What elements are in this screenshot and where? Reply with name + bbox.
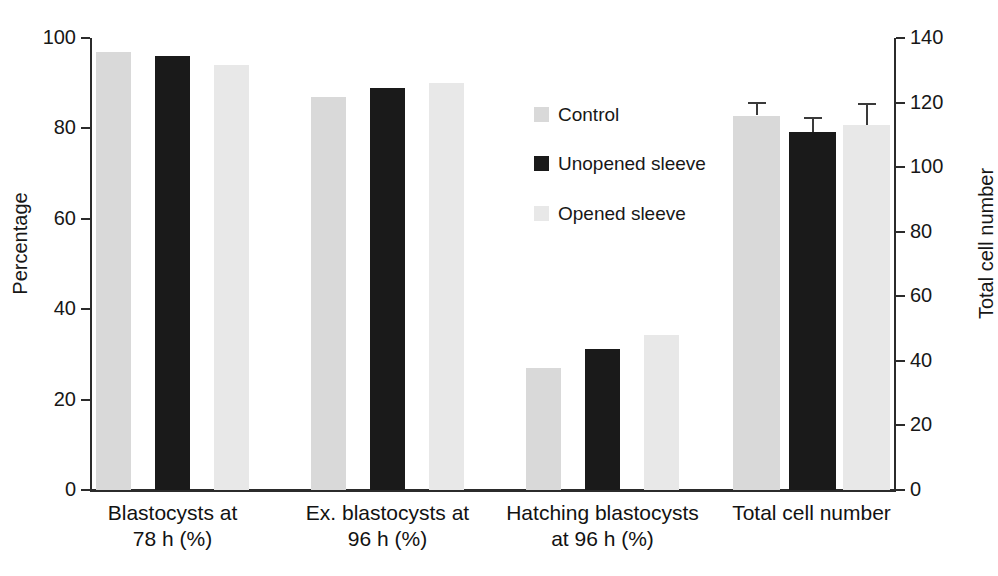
- y-axis-right-tick: [896, 295, 905, 297]
- x-axis-category-label: Ex. blastocysts at96 h (%): [278, 500, 498, 552]
- y-axis-left-tick: [81, 218, 90, 220]
- bar: [311, 97, 346, 490]
- bar: [526, 368, 561, 490]
- y-axis-right-tick: [896, 424, 905, 426]
- error-bar-cap: [858, 103, 876, 105]
- x-axis-category-label: Hatching blastocystsat 96 h (%): [493, 500, 713, 552]
- x-axis-category-label-line: Blastocysts at: [63, 500, 283, 526]
- plot-area: [90, 38, 895, 490]
- y-axis-right-tick-label: 40: [910, 350, 984, 370]
- bar: [96, 52, 131, 490]
- y-axis-left-tick: [81, 399, 90, 401]
- error-bar-stem: [756, 102, 758, 116]
- error-bar-stem: [866, 103, 868, 126]
- error-bar-cap: [804, 117, 822, 119]
- x-axis-category-label: Blastocysts at78 h (%): [63, 500, 283, 552]
- bar: [214, 65, 249, 490]
- y-axis-right-tick: [896, 489, 905, 491]
- error-bar-stem: [812, 117, 814, 132]
- bar: [155, 56, 190, 490]
- bar: [585, 349, 620, 490]
- y-axis-left-tick: [81, 37, 90, 39]
- y-axis-right-tick: [896, 360, 905, 362]
- y-axis-left-tick: [81, 127, 90, 129]
- legend-swatch-icon: [534, 206, 549, 221]
- x-axis-category-label-line: 78 h (%): [63, 526, 283, 552]
- legend-item: Unopened sleeve: [534, 154, 706, 173]
- y-axis-right-tick-label: 100: [910, 156, 984, 176]
- legend-swatch-icon: [534, 156, 549, 171]
- y-axis-right-title: Total cell number: [975, 134, 998, 354]
- y-axis-right-tick-label: 120: [910, 92, 984, 112]
- legend-label: Unopened sleeve: [558, 154, 706, 173]
- bar: [370, 88, 405, 490]
- bar: [429, 83, 464, 490]
- bar: [789, 132, 836, 490]
- y-axis-right-tick: [896, 37, 905, 39]
- y-axis-left-tick-label: 100: [2, 27, 76, 47]
- x-axis-category-label: Total cell number: [702, 500, 922, 526]
- y-axis-right-tick: [896, 102, 905, 104]
- y-axis-right-tick-label: 60: [910, 285, 984, 305]
- y-axis-left-tick-label: 0: [2, 479, 76, 499]
- caption-strip: [0, 566, 986, 576]
- y-axis-left-tick: [81, 308, 90, 310]
- legend-item: Opened sleeve: [534, 204, 686, 223]
- legend-item: Control: [534, 105, 619, 124]
- y-axis-left-title: Percentage: [9, 134, 32, 354]
- bar: [843, 125, 890, 490]
- y-axis-left-tick: [81, 489, 90, 491]
- y-axis-right-tick-label: 20: [910, 414, 984, 434]
- y-axis-right-tick-label: 80: [910, 221, 984, 241]
- x-axis-category-label-line: Ex. blastocysts at: [278, 500, 498, 526]
- legend-label: Opened sleeve: [558, 204, 686, 223]
- x-axis-category-label-line: Hatching blastocysts: [493, 500, 713, 526]
- y-axis-right-tick-label: 140: [910, 27, 984, 47]
- y-axis-right-tick: [896, 166, 905, 168]
- y-axis-left-tick-label: 20: [2, 389, 76, 409]
- y-axis-right-tick: [896, 231, 905, 233]
- error-bar-cap: [748, 102, 766, 104]
- legend-label: Control: [558, 105, 619, 124]
- x-axis-category-label-line: at 96 h (%): [493, 526, 713, 552]
- x-axis-category-label-line: Total cell number: [702, 500, 922, 526]
- y-axis-right-tick-label: 0: [910, 479, 984, 499]
- legend-swatch-icon: [534, 107, 549, 122]
- bar: [644, 335, 679, 490]
- bar: [733, 116, 780, 491]
- x-axis-category-label-line: 96 h (%): [278, 526, 498, 552]
